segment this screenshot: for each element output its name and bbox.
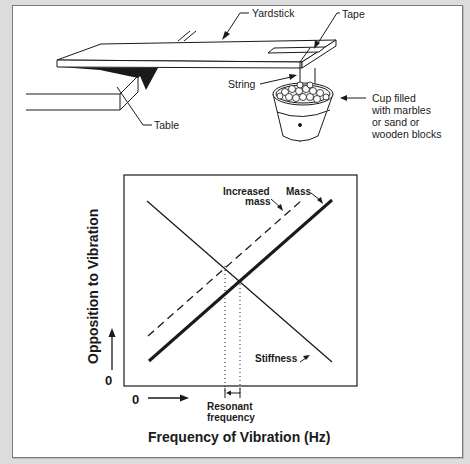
label-cup-line3: or sand or bbox=[372, 116, 420, 128]
label-cup-line4: wooden blocks bbox=[371, 128, 441, 140]
apparatus-illustration bbox=[26, 13, 366, 142]
cup-shape bbox=[273, 82, 333, 141]
label-resonant: Resonant bbox=[207, 401, 253, 412]
y-origin-label: 0 bbox=[105, 373, 112, 388]
table-shape bbox=[26, 67, 158, 110]
label-tape: Tape bbox=[342, 8, 365, 20]
graph: Increased mass Mass Stiffness 0 0 Resona… bbox=[85, 175, 357, 445]
label-increased-mass-line2: mass bbox=[245, 196, 271, 207]
y-axis-title: Opposition to Vibration bbox=[85, 209, 101, 364]
y-axis-arrow-icon bbox=[109, 328, 116, 370]
label-cup-line1: Cup filled bbox=[372, 92, 416, 104]
x-axis-arrow-icon bbox=[148, 395, 189, 402]
resonance-shift-bracket bbox=[225, 388, 240, 398]
x-origin-label: 0 bbox=[132, 392, 139, 407]
x-axis-title: Frequency of Vibration (Hz) bbox=[148, 429, 331, 445]
diagram-canvas: Yardstick Tape String Table Cup filled w… bbox=[0, 0, 470, 464]
tape-shape bbox=[268, 47, 325, 53]
label-table: Table bbox=[154, 119, 179, 131]
label-string: String bbox=[228, 78, 256, 90]
label-mass: Mass bbox=[286, 186, 311, 197]
label-stiffness: Stiffness bbox=[255, 353, 298, 364]
label-yardstick: Yardstick bbox=[252, 7, 295, 19]
label-cup-line2: with marbles bbox=[371, 104, 431, 116]
label-frequency: frequency bbox=[207, 412, 255, 423]
